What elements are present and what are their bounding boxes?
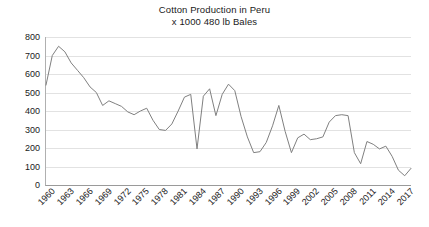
x-tick-label: 1975 bbox=[130, 186, 151, 207]
x-tick-label: 2011 bbox=[357, 186, 378, 207]
x-tick-label: 1966 bbox=[74, 186, 95, 207]
y-tick-label: 500 bbox=[0, 88, 40, 98]
y-tick-label: 0 bbox=[0, 180, 40, 190]
y-tick-label: 700 bbox=[0, 51, 40, 61]
x-tick-label: 1990 bbox=[225, 186, 246, 207]
x-tick-label: 1984 bbox=[187, 186, 208, 207]
x-tick-label: 2008 bbox=[338, 186, 359, 207]
x-tick-label: 1993 bbox=[244, 186, 265, 207]
y-tick-label: 800 bbox=[0, 32, 40, 42]
x-tick-label: 1969 bbox=[92, 186, 113, 207]
chart-container: Cotton Production in Peru x 1000 480 lb … bbox=[0, 0, 429, 227]
line-series bbox=[46, 37, 411, 185]
x-tick-label: 2014 bbox=[376, 186, 397, 207]
x-tick-label: 1999 bbox=[281, 186, 302, 207]
x-tick-label: 2017 bbox=[395, 186, 416, 207]
series-polyline bbox=[46, 46, 411, 176]
y-axis: 0100200300400500600700800 bbox=[0, 37, 40, 185]
x-tick-label: 2005 bbox=[319, 186, 340, 207]
x-tick-label: 1978 bbox=[149, 186, 170, 207]
x-tick-label: 2002 bbox=[300, 186, 321, 207]
x-tick-label: 1963 bbox=[55, 186, 76, 207]
chart-title: Cotton Production in Peru bbox=[0, 4, 429, 16]
chart-title-block: Cotton Production in Peru x 1000 480 lb … bbox=[0, 4, 429, 28]
chart-subtitle: x 1000 480 lb Bales bbox=[0, 16, 429, 28]
y-tick-label: 600 bbox=[0, 69, 40, 79]
y-tick-label: 400 bbox=[0, 106, 40, 116]
y-tick-label: 300 bbox=[0, 125, 40, 135]
x-tick-label: 1981 bbox=[168, 186, 189, 207]
x-tick-label: 1987 bbox=[206, 186, 227, 207]
y-tick-label: 100 bbox=[0, 162, 40, 172]
plot-area bbox=[45, 37, 411, 186]
y-tick-label: 200 bbox=[0, 143, 40, 153]
x-tick-label: 1996 bbox=[262, 186, 283, 207]
x-axis: 1960196319661969197219751978198119841987… bbox=[45, 186, 410, 227]
x-tick-label: 1972 bbox=[111, 186, 132, 207]
